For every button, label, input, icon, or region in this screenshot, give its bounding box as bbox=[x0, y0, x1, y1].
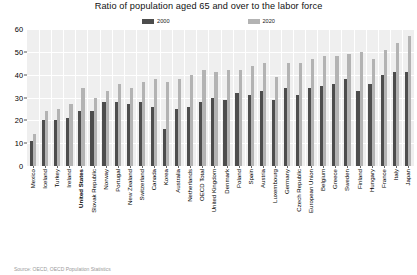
y-tick-label: 0 bbox=[19, 162, 23, 171]
x-label-cell: United Kingdom bbox=[208, 167, 220, 249]
x-tick-mark bbox=[178, 166, 179, 168]
x-label-cell: Australia bbox=[172, 167, 184, 249]
bar-2020[interactable] bbox=[347, 54, 350, 166]
x-label-cell: Portugal bbox=[112, 167, 124, 249]
x-tick-mark bbox=[263, 166, 264, 168]
vertical-gridline bbox=[414, 29, 415, 166]
bar-2020[interactable] bbox=[190, 75, 193, 166]
bar-2020[interactable] bbox=[142, 82, 145, 166]
x-label-cell: Canada bbox=[148, 167, 160, 249]
x-tick-mark bbox=[166, 166, 167, 168]
x-tick-label: Slovak Republic bbox=[90, 169, 96, 213]
x-tick-label: Korea bbox=[163, 169, 169, 185]
bar-2020[interactable] bbox=[166, 82, 169, 166]
y-tick-label: 50 bbox=[15, 47, 23, 56]
bar-group bbox=[112, 29, 124, 166]
y-tick-label: 60 bbox=[15, 25, 23, 34]
x-label-cell: Turkey bbox=[51, 167, 63, 249]
x-tick-label: Portugal bbox=[115, 169, 121, 192]
x-label-cell: Korea bbox=[160, 167, 172, 249]
bar-2020[interactable] bbox=[287, 63, 290, 166]
x-label-cell: France bbox=[378, 167, 390, 249]
chart-title: Ratio of population aged 65 and over to … bbox=[0, 1, 417, 11]
bar-2020[interactable] bbox=[130, 88, 133, 166]
x-tick-label: United Kingdom bbox=[211, 169, 217, 212]
bar-group bbox=[341, 29, 353, 166]
x-label-cell: Iceland bbox=[39, 167, 51, 249]
x-label-cell: Japan bbox=[402, 167, 414, 249]
bar-2020[interactable] bbox=[227, 70, 230, 166]
bar-2020[interactable] bbox=[94, 98, 97, 167]
x-tick-label: Italy bbox=[393, 169, 399, 180]
bar-group bbox=[184, 29, 196, 166]
bar-2020[interactable] bbox=[372, 59, 375, 166]
x-tick-label: Turkey bbox=[54, 169, 60, 187]
bar-2020[interactable] bbox=[263, 63, 266, 166]
x-label-cell: OECD Total bbox=[196, 167, 208, 249]
x-label-cell: Denmark bbox=[221, 167, 233, 249]
x-label-cell: Czech Republic bbox=[293, 167, 305, 249]
y-tick-label: 10 bbox=[15, 139, 23, 148]
x-label-cell: Spain bbox=[245, 167, 257, 249]
bar-group bbox=[87, 29, 99, 166]
bar-2020[interactable] bbox=[299, 63, 302, 166]
bar-2020[interactable] bbox=[106, 91, 109, 166]
bar-2020[interactable] bbox=[335, 56, 338, 166]
x-tick-label: Poland bbox=[236, 169, 242, 188]
legend-entry-2000[interactable]: 2000 bbox=[142, 18, 169, 24]
x-label-cell: Switzerland bbox=[136, 167, 148, 249]
x-tick-mark bbox=[142, 166, 143, 168]
bar-group bbox=[221, 29, 233, 166]
bar-2020[interactable] bbox=[57, 109, 60, 166]
x-label-cell: Austria bbox=[257, 167, 269, 249]
bar-group bbox=[160, 29, 172, 166]
x-tick-label: France bbox=[381, 169, 387, 188]
bar-2020[interactable] bbox=[118, 84, 121, 166]
bar-2020[interactable] bbox=[360, 52, 363, 166]
x-tick-label: OECD Total bbox=[199, 169, 205, 201]
y-axis: 0102030405060 bbox=[0, 29, 27, 166]
x-axis-labels: MexicoIcelandTurkeyIrelandUnited StatesS… bbox=[27, 167, 414, 249]
bar-2020[interactable] bbox=[33, 134, 36, 166]
source-note: Source: OECD, OECD Population Statistics bbox=[14, 266, 111, 272]
bar-group bbox=[208, 29, 220, 166]
x-tick-mark bbox=[239, 166, 240, 168]
x-label-cell: Mexico bbox=[27, 167, 39, 249]
bar-group bbox=[366, 29, 378, 166]
y-tick-label: 40 bbox=[15, 70, 23, 79]
bar-2020[interactable] bbox=[396, 43, 399, 166]
legend-swatch-2020 bbox=[248, 19, 260, 24]
x-tick-mark bbox=[251, 166, 252, 168]
bar-2020[interactable] bbox=[311, 59, 314, 166]
bar-group bbox=[124, 29, 136, 166]
bar-2020[interactable] bbox=[178, 79, 181, 166]
legend-swatch-2000 bbox=[142, 19, 154, 24]
bar-2020[interactable] bbox=[69, 104, 72, 166]
x-tick-label: Belgium bbox=[320, 169, 326, 191]
x-tick-label: New Zealand bbox=[127, 169, 133, 205]
x-tick-mark bbox=[81, 166, 82, 168]
x-tick-mark bbox=[299, 166, 300, 168]
bar-group bbox=[172, 29, 184, 166]
x-label-cell: United States bbox=[75, 167, 87, 249]
bar-2020[interactable] bbox=[323, 56, 326, 166]
x-tick-label: Japan bbox=[405, 169, 411, 186]
bar-2020[interactable] bbox=[275, 77, 278, 166]
bar-2020[interactable] bbox=[81, 88, 84, 166]
bar-2020[interactable] bbox=[202, 70, 205, 166]
bar-2020[interactable] bbox=[408, 36, 411, 166]
bar-group bbox=[27, 29, 39, 166]
bar-2020[interactable] bbox=[239, 70, 242, 166]
bar-group bbox=[63, 29, 75, 166]
bar-2020[interactable] bbox=[154, 79, 157, 166]
x-tick-label: Australia bbox=[175, 169, 181, 193]
bar-group bbox=[281, 29, 293, 166]
x-tick-mark bbox=[335, 166, 336, 168]
bar-group bbox=[233, 29, 245, 166]
bar-2020[interactable] bbox=[251, 66, 254, 166]
x-tick-label: European Union bbox=[308, 169, 314, 213]
bar-2020[interactable] bbox=[214, 72, 217, 166]
legend-entry-2020[interactable]: 2020 bbox=[248, 18, 275, 24]
bar-2020[interactable] bbox=[384, 50, 387, 166]
bar-2020[interactable] bbox=[45, 111, 48, 166]
